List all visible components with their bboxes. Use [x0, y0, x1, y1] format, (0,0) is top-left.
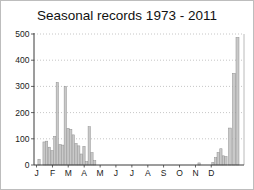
bar	[228, 128, 231, 165]
bar	[72, 135, 74, 165]
bar	[220, 149, 222, 165]
x-month-label: O	[176, 168, 183, 178]
bar	[215, 158, 217, 165]
y-tick-label: 100	[15, 134, 29, 144]
bar	[54, 136, 56, 165]
bar	[80, 154, 82, 165]
bar	[38, 159, 40, 165]
bar	[83, 146, 85, 165]
bar	[225, 157, 227, 165]
bar	[86, 162, 88, 165]
bar	[75, 144, 77, 165]
x-month-label: A	[81, 168, 87, 178]
x-month-label: J	[130, 168, 134, 178]
bar	[222, 156, 224, 165]
bar	[51, 151, 53, 165]
x-month-label: J	[114, 168, 118, 178]
x-month-label: M	[65, 168, 72, 178]
bar	[48, 147, 50, 165]
y-tick-label: 0	[25, 160, 30, 170]
bar	[232, 73, 235, 165]
y-tick-label: 400	[15, 55, 29, 65]
seasonal-records-bar-chart: 0100200300400500JFMAMJJASOND	[1, 1, 254, 190]
y-tick-label: 500	[15, 29, 29, 39]
bar	[91, 153, 93, 165]
bar	[64, 86, 66, 165]
bar	[70, 129, 72, 165]
y-tick-label: 200	[15, 108, 29, 118]
bar	[56, 82, 58, 165]
bar	[59, 145, 61, 165]
bar	[78, 146, 80, 165]
x-month-label: J	[34, 168, 38, 178]
bar	[67, 128, 69, 165]
bar	[45, 141, 47, 165]
x-month-label: F	[50, 168, 55, 178]
bar	[236, 37, 239, 165]
x-month-label: M	[97, 168, 104, 178]
bar	[62, 145, 64, 165]
x-month-label: N	[192, 168, 198, 178]
bar	[94, 161, 96, 165]
y-tick-label: 300	[15, 81, 29, 91]
bar	[88, 127, 90, 165]
bar	[217, 152, 219, 165]
x-month-label: D	[208, 168, 214, 178]
x-month-label: A	[145, 168, 151, 178]
x-month-label: S	[161, 168, 167, 178]
chart-window: Seasonal records 1973 - 2011 01002003004…	[0, 0, 254, 190]
bar	[43, 142, 45, 165]
chart-canvas: 0100200300400500JFMAMJJASOND	[1, 1, 254, 190]
